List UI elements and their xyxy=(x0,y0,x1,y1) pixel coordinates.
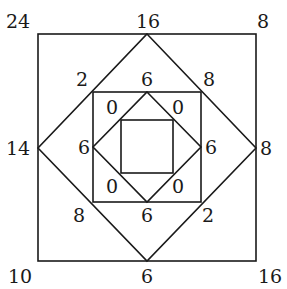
inner-square xyxy=(121,120,173,173)
nested-squares-diagram: 24 8 10 16 16 8 6 14 2 8 8 2 6 6 6 6 0 0… xyxy=(0,0,287,289)
label-middle-bottom-left: 8 xyxy=(73,204,85,226)
label-middle-top-right: 8 xyxy=(203,68,215,90)
label-diamond-right: 8 xyxy=(260,137,272,159)
label-outer-top-left: 24 xyxy=(6,10,30,32)
label-middle-diamond-right: 6 xyxy=(205,136,217,158)
label-outer-bottom-left: 10 xyxy=(8,265,32,287)
label-inner-bottom-right: 0 xyxy=(172,175,184,197)
label-outer-top-right: 8 xyxy=(257,10,269,32)
label-middle-bottom-right: 2 xyxy=(202,204,214,226)
label-middle-top-left: 2 xyxy=(76,68,88,90)
label-diamond-bottom: 6 xyxy=(141,265,153,287)
label-inner-bottom-left: 0 xyxy=(106,175,118,197)
label-inner-top-left: 0 xyxy=(106,96,118,118)
label-inner-top-right: 0 xyxy=(172,96,184,118)
label-middle-diamond-bottom: 6 xyxy=(141,204,153,226)
label-middle-diamond-left: 6 xyxy=(78,136,90,158)
label-diamond-top: 16 xyxy=(136,10,160,32)
label-diamond-left: 14 xyxy=(6,137,30,159)
label-outer-bottom-right: 16 xyxy=(258,265,282,287)
label-middle-diamond-top: 6 xyxy=(141,68,153,90)
